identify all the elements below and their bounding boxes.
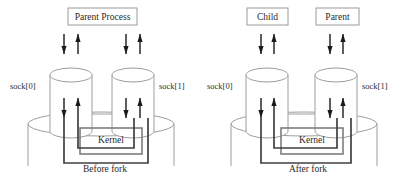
kernel-label-2: Kernel	[299, 135, 325, 145]
socketpair-fork-diagram: Parent Process	[0, 0, 406, 180]
arrow-pair-process-sock0	[61, 34, 80, 54]
process-box-parent[interactable]: Parent	[316, 8, 359, 25]
arrow-up-sock0-to-process	[75, 34, 80, 54]
socket-label-sock1: sock[1]	[159, 81, 185, 91]
arrow-down-child-to-sock0b	[258, 34, 263, 54]
process-box-child[interactable]: Child	[247, 8, 288, 25]
arrow-up-sock1b-to-parent	[340, 34, 345, 54]
panel-after-fork: Child Parent	[207, 8, 388, 174]
arrow-down-parent-to-sock1b	[327, 34, 332, 54]
arrow-up-sock0b-to-child	[271, 34, 276, 54]
arrow-up-sock1-to-process	[137, 34, 142, 54]
process-label-child: Child	[257, 12, 278, 22]
panel-caption-after-fork: After fork	[289, 164, 327, 174]
panel-before-fork: Parent Process	[10, 8, 185, 174]
arrow-down-process-to-sock0	[61, 34, 66, 54]
arrow-pair-process-sock1	[123, 34, 142, 54]
diagram-canvas: Parent Process	[0, 0, 406, 180]
arrow-pair-child-sock0b	[258, 34, 276, 54]
socket-label-sock0: sock[0]	[10, 81, 36, 91]
arrow-down-process-to-sock1	[123, 34, 128, 54]
kernel-label: Kernel	[98, 135, 124, 145]
socket-label-sock0b: sock[0]	[207, 81, 233, 91]
process-label-parent-process: Parent Process	[75, 12, 131, 22]
process-box-parent-process[interactable]: Parent Process	[68, 8, 137, 25]
socket-label-sock1b: sock[1]	[362, 81, 388, 91]
panel-caption-before-fork: Before fork	[83, 164, 127, 174]
arrow-pair-parent-sock1b	[327, 34, 345, 54]
process-label-parent: Parent	[325, 12, 350, 22]
